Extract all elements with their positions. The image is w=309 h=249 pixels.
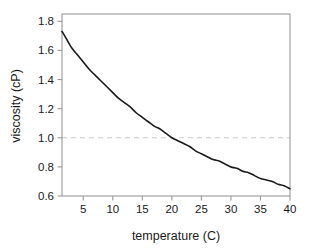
y-tick-label: 1.8 <box>38 15 54 27</box>
y-tick-label: 1.4 <box>38 74 55 86</box>
x-tick-label: 30 <box>225 203 238 215</box>
y-axis-title: viscosity (cP) <box>9 69 23 143</box>
x-tick-label: 20 <box>165 203 178 215</box>
x-axis-title: temperature (C) <box>132 229 220 243</box>
viscosity-vs-temperature-chart: 510152025303540 0.60.81.01.21.41.61.8 te… <box>0 0 309 249</box>
x-tick-label: 35 <box>254 203 267 215</box>
x-tick-label: 10 <box>106 203 119 215</box>
x-tick-label: 25 <box>195 203 208 215</box>
y-tick-label: 1.0 <box>38 132 54 144</box>
x-tick-label: 15 <box>136 203 149 215</box>
x-tick-label: 40 <box>284 203 297 215</box>
x-tick-label: 5 <box>80 203 86 215</box>
chart-figure: 510152025303540 0.60.81.01.21.41.61.8 te… <box>0 0 309 249</box>
y-tick-label: 1.6 <box>38 44 54 56</box>
y-tick-label: 0.8 <box>38 161 54 173</box>
y-tick-label: 0.6 <box>38 190 54 202</box>
y-tick-label: 1.2 <box>38 103 54 115</box>
